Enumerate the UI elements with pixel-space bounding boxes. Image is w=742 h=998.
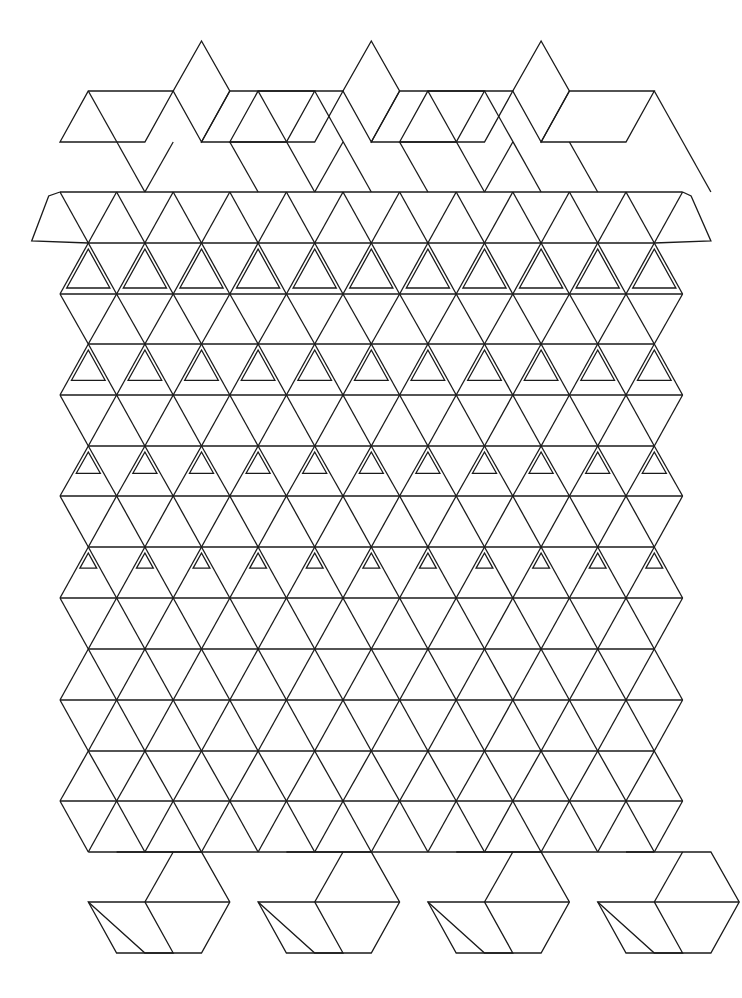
tessellation-artwork — [0, 0, 742, 998]
background — [0, 0, 742, 998]
